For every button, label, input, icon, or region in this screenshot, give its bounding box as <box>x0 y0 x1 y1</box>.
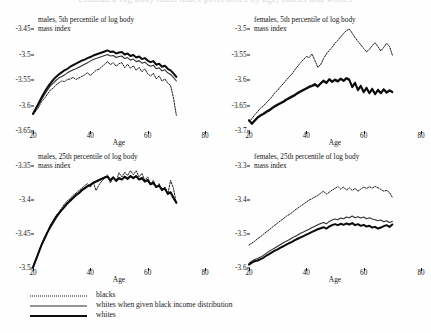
x-axis-label: Age <box>329 138 341 147</box>
legend-line-thin-icon <box>30 306 87 307</box>
panel-females-25th: females, 25th percentile of log body mas… <box>216 153 431 293</box>
legend-label: blacks <box>96 290 115 299</box>
panel-females-5th: females, 5th percentile of log body mass… <box>216 16 431 156</box>
series-line <box>249 78 392 123</box>
plot-area: Age -3.5-3.55-3.6-3.65-3.720406080 <box>249 29 421 131</box>
x-axis-label: Age <box>329 275 341 284</box>
series-line <box>249 186 392 244</box>
legend-label: whites <box>96 310 116 319</box>
plot-area: Age -3.3-3.4-3.5-3.620406080 <box>249 166 421 268</box>
series-line <box>33 176 176 267</box>
x-axis-label: Age <box>113 138 125 147</box>
legend-label: whites when given black income distribut… <box>96 300 232 309</box>
x-axis-label: Age <box>113 275 125 284</box>
series-line <box>249 216 392 263</box>
legend-line-thick-icon <box>30 315 87 317</box>
panel-males-5th: males, 5th percentile of log body mass i… <box>0 16 215 156</box>
series-canvas <box>33 29 209 133</box>
legend-line-dotted-icon <box>30 296 87 297</box>
plot-area: Age -3.45-3.5-3.55-3.6-3.6520406080 <box>33 29 205 131</box>
series-line <box>33 62 176 116</box>
series-canvas <box>249 29 425 133</box>
cut-off-header-text: estimated log body mass index percentile… <box>0 0 431 6</box>
figure-page: estimated log body mass index percentile… <box>0 0 431 333</box>
series-canvas <box>33 166 209 270</box>
panel-males-25th: males, 25th percentile of log body mass … <box>0 153 215 293</box>
series-canvas <box>249 166 425 270</box>
plot-area: Age -3.35-3.4-3.45-3.520406080 <box>33 166 205 268</box>
